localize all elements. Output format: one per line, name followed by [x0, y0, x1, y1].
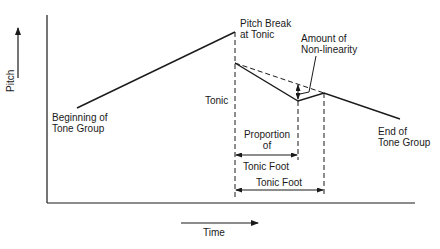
- proportion-label-line2: of: [240, 140, 294, 151]
- time-axis-label: Time: [203, 227, 225, 238]
- tonic-label: Tonic: [205, 95, 228, 106]
- nonlinearity-label-line1: Amount of: [301, 33, 347, 44]
- beginning-label-line2: Tone Group: [52, 123, 104, 134]
- pitch-break-label-line1: Pitch Break: [240, 18, 291, 29]
- end-label-line1: End of: [378, 126, 407, 137]
- proportion-label-line1: Proportion: [240, 129, 294, 140]
- proportion-tonic-foot-label: Tonic Foot: [243, 161, 289, 172]
- end-label-line2: Tone Group: [378, 137, 430, 148]
- linear-reference-dashed-line: [235, 63, 324, 93]
- nonlinearity-label-line2: Non-linearity: [301, 44, 357, 55]
- tonic-foot-label: Tonic Foot: [256, 177, 302, 188]
- beginning-label-line1: Beginning of: [52, 112, 108, 123]
- nonlinearity-leader-line: [300, 56, 316, 94]
- pitch-axis-label: Pitch: [5, 70, 16, 92]
- pitch-break-label-line2: at Tonic: [240, 29, 274, 40]
